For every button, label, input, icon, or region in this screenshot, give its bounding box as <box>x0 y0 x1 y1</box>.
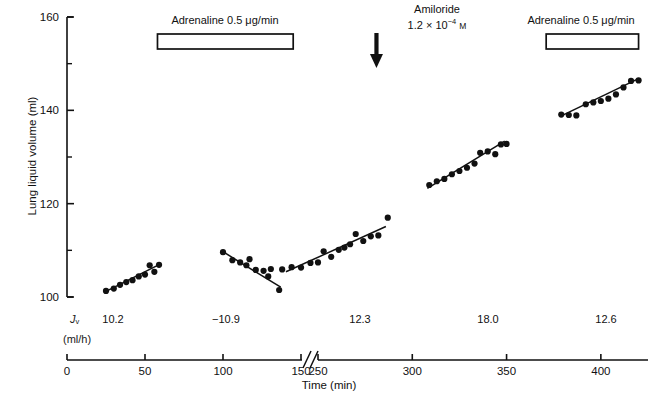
adrenaline-bar-1 <box>157 34 293 49</box>
data-point <box>246 256 252 262</box>
x-tick-label: 100 <box>213 365 232 377</box>
data-point <box>566 112 572 118</box>
annotation-shapes <box>157 33 638 68</box>
data-point <box>441 176 447 182</box>
x-tick-label: 350 <box>497 365 516 377</box>
data-point <box>613 91 619 97</box>
data-point <box>117 282 123 288</box>
x-tick-labels: 050100150250300350400 <box>64 365 611 377</box>
data-point <box>605 96 611 102</box>
data-point <box>103 288 109 294</box>
data-point <box>229 257 235 263</box>
amiloride-arrow <box>370 33 383 68</box>
adrenaline-bar-2 <box>546 34 638 49</box>
data-point <box>471 160 477 166</box>
data-point <box>260 268 266 274</box>
data-point <box>315 259 321 265</box>
data-point <box>151 269 157 275</box>
data-point <box>347 241 353 247</box>
data-point <box>360 238 366 244</box>
data-point <box>426 182 432 188</box>
fit-lines <box>106 79 639 292</box>
data-point <box>142 272 148 278</box>
data-point <box>328 254 334 260</box>
data-point <box>573 112 579 118</box>
data-point <box>353 231 359 237</box>
data-point <box>265 273 271 279</box>
data-point <box>477 150 483 156</box>
data-point <box>385 215 391 221</box>
data-point <box>464 165 470 171</box>
data-point <box>635 77 641 83</box>
x-tick-label: 0 <box>64 365 70 377</box>
data-point <box>434 178 440 184</box>
x-tick-label: 300 <box>403 365 422 377</box>
data-point <box>220 249 226 255</box>
y-tick-label: 140 <box>40 104 59 116</box>
y-tick-label: 120 <box>40 198 59 210</box>
data-point <box>298 265 304 271</box>
data-point <box>590 99 596 105</box>
data-point <box>243 262 249 268</box>
data-point <box>111 286 117 292</box>
data-point <box>558 111 564 117</box>
data-point <box>503 141 509 147</box>
data-point <box>307 260 313 266</box>
data-point <box>321 248 327 254</box>
data-point <box>449 171 455 177</box>
data-point <box>485 148 491 154</box>
data-point <box>237 259 243 265</box>
data-point <box>456 168 462 174</box>
data-point <box>289 264 295 270</box>
data-point <box>583 101 589 107</box>
data-point <box>341 244 347 250</box>
data-point <box>136 273 142 279</box>
data-point <box>628 78 634 84</box>
data-point <box>156 262 162 268</box>
data-point <box>279 266 285 272</box>
data-point <box>598 98 604 104</box>
data-point <box>368 233 374 239</box>
y-axis <box>67 17 74 297</box>
chart-figure: Lung liquid volume (ml) Time (min) Adren… <box>0 0 658 403</box>
y-tick-label: 100 <box>40 291 59 303</box>
data-points <box>103 77 642 294</box>
data-point <box>123 279 129 285</box>
fit-line-adrenaline-2 <box>561 79 638 116</box>
plot-canvas: 100120140160 050100150250300350400 <box>0 0 658 403</box>
data-point <box>620 84 626 90</box>
data-point <box>129 277 135 283</box>
x-tick-label: 400 <box>591 365 610 377</box>
data-point <box>268 266 274 272</box>
data-point <box>336 247 342 253</box>
data-point <box>147 262 153 268</box>
data-point <box>276 287 282 293</box>
x-axis <box>67 351 648 368</box>
data-point <box>492 151 498 157</box>
x-tick-label: 50 <box>139 365 152 377</box>
y-tick-label: 160 <box>40 11 59 23</box>
data-point <box>375 232 381 238</box>
x-tick-label: 250 <box>308 365 327 377</box>
data-point <box>498 141 504 147</box>
y-tick-labels: 100120140160 <box>40 11 59 303</box>
data-point <box>253 267 259 273</box>
